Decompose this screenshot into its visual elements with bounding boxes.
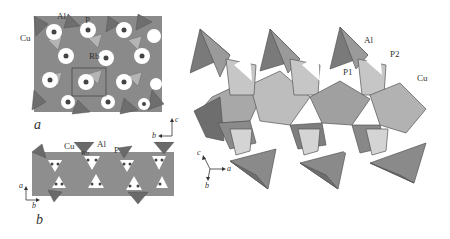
axis-indicator-b: a b	[18, 182, 44, 208]
atom-label-p1-c: P1	[343, 68, 353, 77]
axis-label-b: b	[32, 202, 36, 210]
axis-indicator-a: b c	[150, 116, 180, 140]
axis-indicator-c: c a b	[196, 147, 236, 191]
atom-label-cu-b: Cu	[64, 142, 75, 151]
atom-label-cu-c: Cu	[417, 74, 428, 83]
polyhedra-framework-b	[28, 142, 178, 204]
atom-label-p-a: P	[85, 16, 90, 25]
atom-label-al-a: Al	[57, 12, 66, 21]
panel-label-a: a	[34, 117, 41, 133]
panel-label-b: b	[36, 212, 43, 228]
atom-label-rb-a: Rb	[89, 52, 100, 61]
atom-label-p-b: P	[114, 146, 119, 155]
atom-label-al-b: Al	[97, 140, 106, 149]
atom-label-rb-b: Rb	[81, 150, 89, 157]
polyhedra-framework-a	[28, 10, 168, 118]
axis-label-b: b	[152, 132, 156, 140]
atom-label-al-c: Al	[364, 36, 373, 45]
panel-a-structure	[28, 10, 168, 118]
axis-label-c: c	[175, 116, 179, 124]
axis-label-a: a	[19, 182, 23, 190]
atom-label-cu-a: Cu	[20, 34, 31, 43]
panel-b-structure	[28, 142, 178, 204]
axis-label-b: b	[205, 182, 209, 190]
axis-label-c: c	[197, 149, 201, 157]
axis-label-a: a	[227, 165, 231, 173]
atom-label-p2-c: P2	[390, 50, 400, 59]
